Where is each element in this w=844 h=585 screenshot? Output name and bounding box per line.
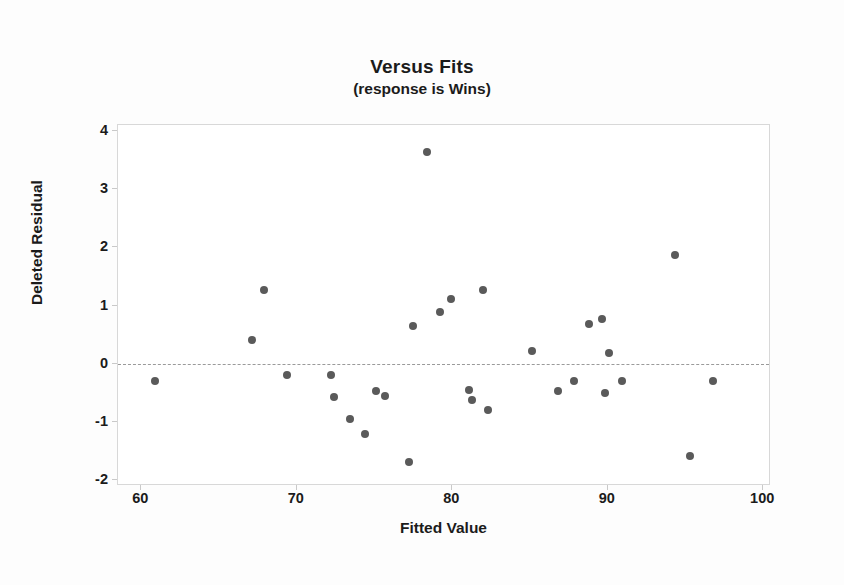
x-tick-mark <box>140 485 141 490</box>
plot-canvas <box>118 125 769 484</box>
data-point <box>260 286 268 294</box>
data-point <box>423 148 431 156</box>
data-point <box>405 458 413 466</box>
x-tick-label: 100 <box>732 490 792 506</box>
data-point <box>468 396 476 404</box>
x-tick-mark <box>762 485 763 490</box>
x-tick-mark <box>451 485 452 490</box>
data-point <box>346 415 354 423</box>
plot-area <box>117 124 770 485</box>
data-point <box>447 295 455 303</box>
data-point <box>585 320 593 328</box>
data-point <box>570 377 578 385</box>
x-tick-label: 60 <box>110 490 170 506</box>
x-axis-tick-marks <box>117 485 770 491</box>
page-title: Versus Fits <box>0 56 844 78</box>
data-point <box>372 387 380 395</box>
data-point <box>709 377 717 385</box>
y-tick-label: 4 <box>68 123 108 137</box>
y-tick-label: 0 <box>68 356 108 370</box>
data-point <box>465 386 473 394</box>
chart-subtitle: (response is Wins) <box>0 79 844 99</box>
x-tick-mark <box>296 485 297 490</box>
data-point <box>618 377 626 385</box>
data-point <box>479 286 487 294</box>
y-axis-tick-labels: -2-101234 <box>62 124 108 485</box>
data-point <box>436 308 444 316</box>
data-point <box>598 315 606 323</box>
zero-reference-line <box>118 364 769 365</box>
data-point <box>248 336 256 344</box>
data-point <box>554 387 562 395</box>
data-point <box>605 349 613 357</box>
data-point <box>330 393 338 401</box>
data-point <box>601 389 609 397</box>
x-axis-tick-labels: 60708090100 <box>117 490 770 510</box>
y-tick-label: -1 <box>68 414 108 428</box>
data-point <box>671 251 679 259</box>
chart-title-block: Versus Fits (response is Wins) <box>0 56 844 99</box>
versus-fits-chart: Versus Fits (response is Wins) Deleted R… <box>0 0 844 585</box>
y-axis-title: Deleted Residual <box>28 180 46 305</box>
y-tick-label: 1 <box>68 298 108 312</box>
data-point <box>361 430 369 438</box>
x-tick-label: 70 <box>266 490 326 506</box>
data-point <box>381 392 389 400</box>
y-tick-label: 2 <box>68 239 108 253</box>
x-tick-label: 90 <box>577 490 637 506</box>
x-tick-label: 80 <box>421 490 481 506</box>
data-point <box>283 371 291 379</box>
data-point <box>686 452 694 460</box>
y-tick-label: -2 <box>68 472 108 486</box>
data-point <box>528 347 536 355</box>
data-point <box>151 377 159 385</box>
y-tick-label: 3 <box>68 181 108 195</box>
data-point <box>327 371 335 379</box>
data-point <box>409 322 417 330</box>
data-point <box>484 406 492 414</box>
x-tick-mark <box>607 485 608 490</box>
x-axis-title: Fitted Value <box>117 519 770 537</box>
